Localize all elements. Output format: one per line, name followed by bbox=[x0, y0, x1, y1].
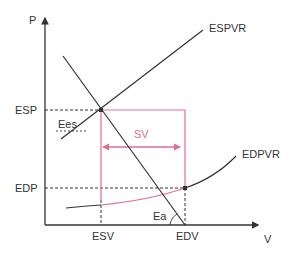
edv-label: EDV bbox=[176, 230, 199, 242]
esv-label: ESV bbox=[92, 230, 115, 242]
sv-box bbox=[101, 110, 185, 200]
pv-diagram: P V ESP EDP ESV EDV ESPVR EDPVR Ees Ea S… bbox=[0, 0, 293, 255]
ees-label: Ees bbox=[58, 118, 77, 130]
edpvr-curve-right bbox=[185, 156, 236, 188]
espvr-line bbox=[61, 30, 203, 139]
esp-label: ESP bbox=[15, 104, 37, 116]
espvr-label: ESPVR bbox=[209, 22, 246, 34]
edpvr-filling-curve bbox=[101, 188, 185, 205]
y-axis-label: P bbox=[29, 14, 36, 26]
end-systolic-point bbox=[99, 108, 103, 112]
ea-angle-arc bbox=[170, 214, 177, 225]
ea-label: Ea bbox=[153, 210, 167, 222]
x-axis-label: V bbox=[264, 233, 272, 245]
end-diastolic-point bbox=[183, 186, 187, 190]
edp-label: EDP bbox=[15, 182, 38, 194]
edpvr-label: EDPVR bbox=[242, 148, 280, 160]
ea-line bbox=[63, 56, 185, 225]
edpvr-curve-left bbox=[66, 205, 101, 208]
sv-label: SV bbox=[134, 128, 149, 140]
